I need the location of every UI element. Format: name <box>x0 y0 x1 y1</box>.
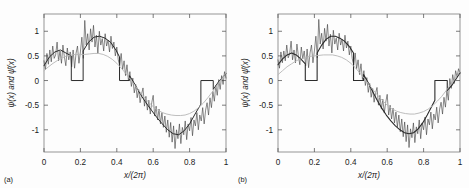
x-tick-label: 0 <box>276 158 281 167</box>
y-tick-label: 0.5 <box>28 52 40 61</box>
figure-container: 00.20.40.60.81-1-0.500.51x/(2π)ψ(x) and … <box>0 0 469 188</box>
x-tick-label: 0.2 <box>309 158 321 167</box>
x-axis-title: x/(2π) <box>357 171 380 180</box>
y-axis-title: ψ(x) and ψ̂(x) <box>241 58 250 107</box>
y-tick-label: 0 <box>268 77 273 86</box>
x-tick-label: 0.4 <box>345 158 357 167</box>
chart-panel-a: 00.20.40.60.81-1-0.500.51x/(2π)ψ(x) and … <box>0 0 234 188</box>
y-axis-title: ψ(x) and ψ̂(x) <box>7 58 16 107</box>
x-tick-label: 0.2 <box>75 158 87 167</box>
y-tick-label: -1 <box>32 126 40 135</box>
y-tick-label: -1 <box>266 126 274 135</box>
panel-tag: (a) <box>4 175 13 184</box>
y-tick-label: -0.5 <box>259 101 274 110</box>
x-tick-label: 0.8 <box>184 158 196 167</box>
plot-frame <box>44 14 226 152</box>
y-tick-label: 0.5 <box>262 52 274 61</box>
panel-tag: (b) <box>238 175 247 184</box>
x-tick-label: 1 <box>458 158 463 167</box>
y-tick-label: -0.5 <box>25 101 40 110</box>
x-tick-label: 0.8 <box>418 158 430 167</box>
y-tick-label: 1 <box>34 27 39 36</box>
x-tick-label: 1 <box>224 158 229 167</box>
chart-panel-b: 00.20.40.60.81-1-0.500.51x/(2π)ψ(x) and … <box>234 0 468 188</box>
x-tick-label: 0.4 <box>111 158 123 167</box>
x-tick-label: 0.6 <box>382 158 394 167</box>
x-axis-title: x/(2π) <box>123 171 146 180</box>
x-tick-label: 0.6 <box>148 158 160 167</box>
y-tick-label: 1 <box>268 27 273 36</box>
plot-frame <box>278 14 460 152</box>
y-tick-label: 0 <box>34 77 39 86</box>
x-tick-label: 0 <box>42 158 47 167</box>
